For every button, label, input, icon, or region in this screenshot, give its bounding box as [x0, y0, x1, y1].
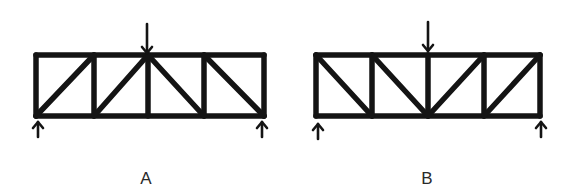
truss-b-label: B: [421, 170, 432, 187]
diagonal-member-2: [148, 55, 204, 116]
diagonal-member-0: [316, 55, 372, 116]
truss-diagram: [0, 0, 566, 194]
diagonal-member-0: [36, 55, 94, 116]
diagonal-member-1: [372, 55, 428, 116]
truss-a: [33, 24, 267, 137]
load-arrow: [423, 22, 433, 51]
load-arrow: [142, 24, 152, 53]
diagonal-member-3: [484, 55, 540, 116]
diagonal-member-1: [94, 55, 148, 116]
support-reaction-arrow-0: [33, 122, 43, 137]
support-reaction-arrow-1: [536, 122, 546, 137]
truss-a-label: A: [140, 170, 151, 187]
truss-b: [313, 22, 546, 139]
diagonal-member-3: [204, 55, 264, 116]
support-reaction-arrow-0: [313, 124, 323, 139]
support-reaction-arrow-1: [257, 122, 267, 137]
diagonal-member-2: [428, 55, 484, 116]
